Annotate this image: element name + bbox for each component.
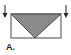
figure-label: A. [6,42,15,52]
down-arrow-left-icon [3,5,8,18]
down-arrow-right-icon [64,5,69,18]
